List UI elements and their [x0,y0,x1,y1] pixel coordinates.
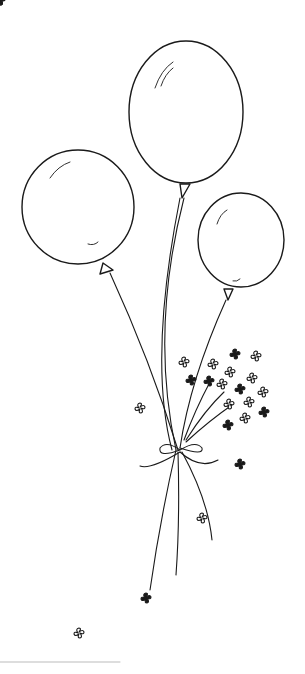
balloon-right [198,193,284,287]
knot-right [224,289,233,300]
knot-center [180,184,190,198]
balloon-drawing [0,0,305,674]
sketch [0,0,305,674]
flowers [0,0,269,638]
balloons [22,41,284,300]
knot-left [100,263,113,274]
strings [110,198,232,590]
balloon-center [129,41,243,183]
balloon-left [22,150,134,264]
